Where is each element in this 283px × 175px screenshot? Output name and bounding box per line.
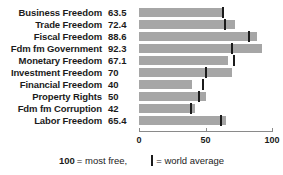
row-label: Financial Freedom bbox=[20, 79, 102, 91]
world-average-marker bbox=[222, 7, 224, 18]
legend-world-average: = world average bbox=[151, 155, 224, 166]
score-bar bbox=[139, 92, 206, 101]
chart-row: Investment Freedom70 bbox=[0, 67, 283, 79]
world-average-marker bbox=[248, 31, 250, 42]
row-value: 67.1 bbox=[108, 55, 127, 67]
row-plot bbox=[139, 55, 272, 67]
row-plot bbox=[139, 19, 272, 31]
world-average-marker bbox=[202, 79, 204, 90]
score-bar bbox=[139, 80, 192, 89]
row-value: 63.5 bbox=[108, 7, 127, 19]
axis-tick-label: 0 bbox=[136, 135, 141, 145]
world-average-marker bbox=[231, 43, 233, 54]
row-plot bbox=[139, 115, 272, 127]
row-plot bbox=[139, 91, 272, 103]
world-average-marker-icon bbox=[151, 155, 153, 166]
score-bar bbox=[139, 32, 257, 41]
row-value: 72.4 bbox=[108, 19, 127, 31]
world-average-marker bbox=[220, 115, 222, 126]
chart-legend: 100 = most free, = world average bbox=[0, 152, 283, 168]
world-average-marker bbox=[233, 55, 235, 66]
x-axis: 050100 bbox=[139, 131, 272, 132]
row-label: Labor Freedom bbox=[34, 115, 102, 127]
row-value: 40 bbox=[108, 79, 119, 91]
chart-row: Labor Freedom65.4 bbox=[0, 115, 283, 127]
axis-tick bbox=[272, 128, 273, 132]
row-plot bbox=[139, 103, 272, 115]
row-value: 65.4 bbox=[108, 115, 127, 127]
axis-tick-label: 50 bbox=[200, 135, 210, 145]
chart-row: Business Freedom63.5 bbox=[0, 7, 283, 19]
chart-rows: Business Freedom63.5Trade Freedom72.4Fis… bbox=[0, 7, 283, 127]
row-value: 92.3 bbox=[108, 43, 127, 55]
score-bar bbox=[139, 20, 235, 29]
row-label: Investment Freedom bbox=[11, 67, 102, 79]
score-bar bbox=[139, 44, 262, 53]
axis-tick bbox=[139, 128, 140, 132]
row-label: Fdm fm Government bbox=[11, 43, 102, 55]
chart-row: Fiscal Freedom88.6 bbox=[0, 31, 283, 43]
world-average-marker bbox=[205, 67, 207, 78]
row-value: 88.6 bbox=[108, 31, 127, 43]
row-plot bbox=[139, 79, 272, 91]
row-value: 50 bbox=[108, 91, 119, 103]
axis-tick-label: 100 bbox=[264, 135, 279, 145]
row-value: 42 bbox=[108, 103, 119, 115]
legend-most-free-number: 100 bbox=[59, 155, 75, 166]
score-bar bbox=[139, 68, 232, 77]
row-label: Monetary Freedom bbox=[19, 55, 102, 67]
row-label: Fiscal Freedom bbox=[34, 31, 102, 43]
row-plot bbox=[139, 31, 272, 43]
legend-world-average-text: = world average bbox=[156, 155, 224, 166]
row-label: Fdm fm Corruption bbox=[18, 103, 102, 115]
chart-row: Trade Freedom72.4 bbox=[0, 19, 283, 31]
chart-row: Fdm fm Corruption42 bbox=[0, 103, 283, 115]
score-bar bbox=[139, 8, 223, 17]
score-bar bbox=[139, 116, 226, 125]
world-average-marker bbox=[190, 103, 192, 114]
row-label: Business Freedom bbox=[19, 7, 102, 19]
row-plot bbox=[139, 67, 272, 79]
score-bar bbox=[139, 104, 195, 113]
chart-row: Monetary Freedom67.1 bbox=[0, 55, 283, 67]
legend-most-free-text: = most free, bbox=[77, 155, 127, 166]
row-plot bbox=[139, 7, 272, 19]
chart-row: Fdm fm Government92.3 bbox=[0, 43, 283, 55]
freedom-index-chart: Business Freedom63.5Trade Freedom72.4Fis… bbox=[0, 0, 283, 175]
score-bar bbox=[139, 56, 228, 65]
row-value: 70 bbox=[108, 67, 119, 79]
axis-tick bbox=[206, 128, 207, 132]
legend-most-free: 100 = most free, bbox=[59, 155, 127, 166]
row-label: Property Rights bbox=[32, 91, 102, 103]
row-label: Trade Freedom bbox=[35, 19, 102, 31]
chart-row: Property Rights50 bbox=[0, 91, 283, 103]
world-average-marker bbox=[198, 91, 200, 102]
chart-row: Financial Freedom40 bbox=[0, 79, 283, 91]
world-average-marker bbox=[224, 19, 226, 30]
row-plot bbox=[139, 43, 272, 55]
